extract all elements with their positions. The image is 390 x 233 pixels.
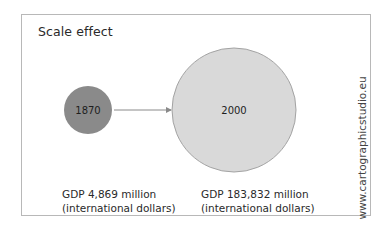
caption-2000-unit: (international dollars) [201, 201, 315, 215]
circle-1870-label: 1870 [75, 105, 100, 116]
credit-url: www.cartographicstudio.eu [356, 76, 368, 219]
caption-1870-gdp: GDP 4,869 million [62, 187, 176, 201]
circle-2000-label: 2000 [221, 105, 246, 116]
caption-1870: GDP 4,869 million (international dollars… [62, 187, 176, 215]
caption-1870-unit: (international dollars) [62, 201, 176, 215]
caption-2000-gdp: GDP 183,832 million [201, 187, 315, 201]
scale-diagram: 1870 2000 [0, 0, 390, 233]
caption-2000: GDP 183,832 million (international dolla… [201, 187, 315, 215]
